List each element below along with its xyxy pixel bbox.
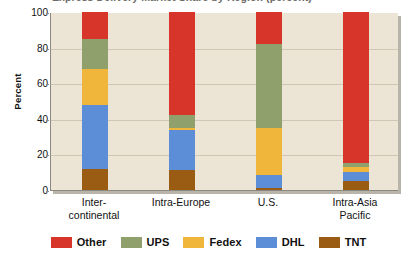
- y-tick-mark: [46, 84, 49, 85]
- y-axis-ticks: 020406080100: [0, 0, 48, 262]
- bar-segment-tnt[interactable]: [343, 181, 369, 190]
- chart-title-cropped: Express Delivery Market Share by Region …: [0, 0, 417, 7]
- bar-stack[interactable]: [256, 13, 282, 190]
- legend-swatch-fedex: [183, 237, 204, 248]
- legend-item-tnt[interactable]: TNT: [319, 236, 367, 248]
- y-tick-label: 80: [2, 44, 48, 54]
- legend-label: Other: [77, 236, 107, 248]
- y-tick-label: 40: [2, 115, 48, 125]
- bar-stack[interactable]: [343, 13, 369, 190]
- bar-segment-dhl[interactable]: [169, 130, 195, 169]
- bar-segment-tnt[interactable]: [169, 170, 195, 190]
- y-tick-label: 60: [2, 79, 48, 89]
- legend-swatch-other: [51, 237, 72, 248]
- bar-segment-fedex[interactable]: [82, 69, 108, 105]
- bar-segment-other[interactable]: [82, 12, 108, 39]
- legend-item-dhl[interactable]: DHL: [256, 236, 305, 248]
- y-tick-label: 0: [2, 186, 48, 196]
- legend-item-fedex[interactable]: Fedex: [183, 236, 241, 248]
- bar-segment-ups[interactable]: [82, 39, 108, 69]
- y-tick-mark: [46, 49, 49, 50]
- y-tick-label: 100: [2, 8, 48, 18]
- legend-label: TNT: [345, 236, 367, 248]
- bar-stack[interactable]: [82, 13, 108, 190]
- bar-segment-tnt[interactable]: [82, 169, 108, 190]
- legend-swatch-tnt: [319, 237, 340, 248]
- y-tick-mark: [46, 155, 49, 156]
- y-tick-mark: [46, 13, 49, 14]
- bar-segment-ups[interactable]: [169, 115, 195, 127]
- bar-segment-ups[interactable]: [256, 44, 282, 128]
- legend-item-other[interactable]: Other: [51, 236, 107, 248]
- legend-swatch-dhl: [256, 237, 277, 248]
- chart-legend: OtherUPSFedexDHLTNT: [0, 236, 417, 248]
- bar-segment-tnt[interactable]: [256, 188, 282, 190]
- y-tick-mark: [46, 120, 49, 121]
- x-axis-label-line1: Intra-Asia: [300, 196, 410, 209]
- bar-segment-fedex[interactable]: [256, 128, 282, 175]
- bar-segment-fedex[interactable]: [169, 128, 195, 131]
- bar-segment-other[interactable]: [343, 12, 369, 163]
- bar-segment-dhl[interactable]: [343, 172, 369, 181]
- bar-segment-dhl[interactable]: [256, 175, 282, 188]
- legend-label: DHL: [282, 236, 305, 248]
- x-axis-label: Intra-AsiaPacific: [300, 196, 410, 221]
- y-tick-label: 20: [2, 150, 48, 160]
- x-axis-label-line2: continental: [39, 209, 149, 222]
- chart-title-text: Express Delivery Market Share by Region …: [52, 0, 312, 3]
- y-tick-mark: [46, 191, 49, 192]
- legend-item-ups[interactable]: UPS: [121, 236, 170, 248]
- chart-figure: Express Delivery Market Share by Region …: [0, 0, 417, 262]
- bar-segment-dhl[interactable]: [82, 105, 108, 169]
- bar-segment-other[interactable]: [169, 12, 195, 115]
- bar-segment-other[interactable]: [256, 12, 282, 44]
- legend-swatch-ups: [121, 237, 142, 248]
- bar-segment-fedex[interactable]: [343, 167, 369, 172]
- legend-label: Fedex: [209, 236, 241, 248]
- legend-label: UPS: [147, 236, 170, 248]
- x-axis-label-line2: Pacific: [300, 209, 410, 222]
- plot-area: [50, 13, 398, 191]
- bar-stack[interactable]: [169, 13, 195, 190]
- bar-segment-ups[interactable]: [343, 163, 369, 167]
